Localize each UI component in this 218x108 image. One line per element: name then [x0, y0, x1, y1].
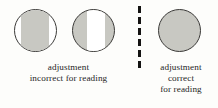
divider-dash: [138, 17, 141, 24]
lens-diagram-left: [14, 9, 57, 52]
dashed-vertical-divider: [138, 6, 141, 68]
caption-right: adjustment correct for reading: [147, 62, 215, 96]
divider-dash: [138, 6, 141, 13]
lens-diagram-right: [158, 9, 201, 52]
divider-dash: [138, 50, 141, 57]
shaded-band-left: [21, 9, 49, 52]
clear-band-middle: [87, 9, 105, 52]
caption-left-line-1: adjustment: [6, 62, 131, 73]
caption-right-line-3: for reading: [147, 84, 215, 95]
divider-dash: [138, 61, 141, 68]
caption-left: adjustment incorrect for reading: [6, 62, 131, 84]
figure-lens-adjustment: adjustment incorrect for reading adjustm…: [0, 0, 218, 108]
caption-right-line-2: correct: [147, 73, 215, 84]
divider-dash: [138, 39, 141, 46]
caption-right-line-1: adjustment: [147, 62, 215, 73]
lens-diagram-middle: [72, 9, 115, 52]
divider-dash: [138, 28, 141, 35]
caption-left-line-2: incorrect for reading: [6, 73, 131, 84]
